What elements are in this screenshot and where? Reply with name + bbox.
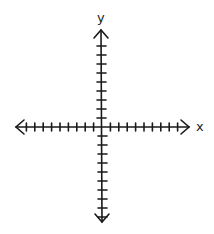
x-axis [16,120,189,134]
y-axis-label: y [97,10,105,25]
y-axis [94,30,109,222]
coordinate-plane: x y [0,0,214,234]
x-axis-label: x [196,119,204,134]
